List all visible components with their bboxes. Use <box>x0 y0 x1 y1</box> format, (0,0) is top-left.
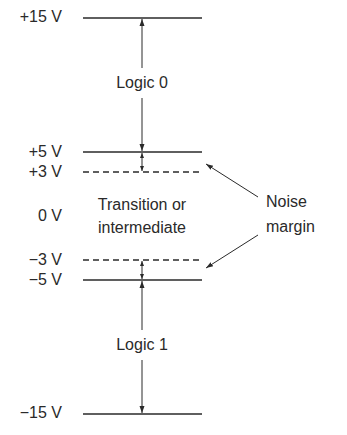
noise-margin-label-line1: Noise <box>266 193 307 211</box>
callout-arrow-top <box>206 164 258 197</box>
transition-label-line1: Transition or <box>80 196 204 214</box>
voltage-level-diagram: +15 V +5 V +3 V 0 V −3 V −5 V −15 V Logi… <box>0 0 347 435</box>
level-label-plus5: +5 V <box>0 143 62 161</box>
level-label-minus5: −5 V <box>0 271 62 289</box>
level-label-zero: 0 V <box>0 207 62 225</box>
level-label-minus15: −15 V <box>0 404 62 422</box>
callout-arrow-bottom <box>206 235 258 268</box>
level-label-plus3: +3 V <box>0 163 62 181</box>
noise-margin-label-line2: margin <box>266 218 315 236</box>
logic1-label: Logic 1 <box>92 336 192 354</box>
level-label-minus3: −3 V <box>0 251 62 269</box>
transition-label-line2: intermediate <box>80 219 204 237</box>
logic0-label: Logic 0 <box>92 74 192 92</box>
level-label-plus15: +15 V <box>0 8 62 26</box>
